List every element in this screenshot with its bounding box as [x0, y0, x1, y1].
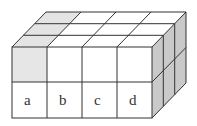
label-a: a: [24, 92, 31, 108]
top-face-shaded-column: [12, 12, 81, 47]
front-shaded-cube: [12, 47, 47, 82]
label-c: c: [94, 92, 101, 108]
cube-cuboid-diagram: a b c d: [0, 0, 197, 126]
label-d: d: [129, 92, 137, 108]
label-b: b: [59, 92, 67, 108]
